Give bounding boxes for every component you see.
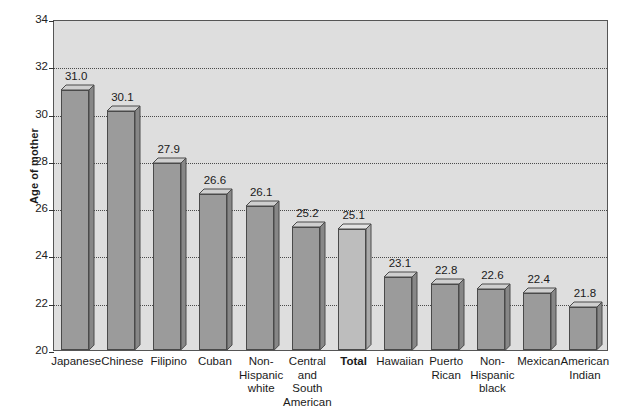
bar-value-label: 25.2 [284,208,330,220]
bar-3d-faces [431,279,466,352]
bar[interactable] [569,302,602,350]
bar-top-face [153,158,186,163]
bar-side-face [597,302,602,350]
bar-value-label: 30.1 [99,92,145,104]
bar[interactable] [246,201,279,350]
bar-side-face [412,272,417,350]
bar-top-face [199,189,232,194]
bar-value-label: 22.6 [469,270,515,282]
bar[interactable] [61,85,94,350]
bar-top-face [292,222,325,227]
y-axis-tick-labels: 3432302826242220 [24,0,48,418]
bar-value-label: 27.9 [146,144,192,156]
bar-side-face [551,288,556,350]
bar-side-face [505,284,510,350]
bar-3d-faces [246,201,281,352]
y-axis-tick-label: 24 [26,250,48,262]
bar-side-face [459,279,464,350]
bar[interactable] [107,106,140,350]
bar-side-face [274,201,279,350]
bar-side-face [227,189,232,350]
bar-top-face [338,224,371,229]
bar-top-face [523,288,556,293]
bar-top-face [246,201,279,206]
x-axis-category-label-line: American [557,355,613,369]
bar-3d-faces [292,222,327,352]
y-axis-tick-label: 30 [26,109,48,121]
bar-3d-faces [61,85,96,352]
bar-top-face [61,85,94,90]
x-axis-category-label: AmericanIndian [557,355,613,382]
y-axis-tick-label: 32 [26,61,48,73]
bar-value-label: 22.4 [516,274,562,286]
bar-top-face [384,272,417,277]
bar-side-face [366,224,371,350]
y-axis-tick-label: 22 [26,298,48,310]
bar-3d-faces [523,288,558,352]
bar-top-face [477,284,510,289]
bar-value-label: 25.1 [331,210,377,222]
bar-value-label: 26.6 [192,175,238,187]
bar-side-face [181,158,186,350]
bar-side-face [135,106,140,350]
plot-area [53,20,608,351]
y-axis-tick-label: 34 [26,14,48,26]
bar-top-face [569,302,602,307]
bar-3d-faces [107,106,142,352]
bar-value-label: 23.1 [377,258,423,270]
y-axis-tickmark [49,352,54,353]
x-axis-category-label-line: black [464,382,520,396]
bar-3d-faces [338,224,373,352]
bars-layer [54,21,607,350]
x-axis-category-label-line: American [279,396,335,410]
y-axis-tick-label: 28 [26,156,48,168]
bar[interactable] [292,222,325,350]
y-axis-tick-label: 20 [26,345,48,357]
bar-top-face [107,106,140,111]
bar[interactable] [199,189,232,350]
bar-value-label: 22.8 [423,265,469,277]
bar-value-label: 26.1 [238,187,284,199]
bar-value-label: 21.8 [562,288,608,300]
bar[interactable] [153,158,186,350]
bar-chart: Age of mother 3432302826242220 31.030.12… [0,0,624,418]
bar-3d-faces [384,272,419,352]
bar[interactable] [384,272,417,350]
bar-3d-faces [199,189,234,352]
x-axis-category-label-line: and [279,369,335,383]
x-axis-category-label-line: South [279,382,335,396]
bar-value-label: 31.0 [53,71,99,83]
bar-3d-faces [153,158,188,352]
bar[interactable] [338,224,371,350]
bar-side-face [89,85,94,350]
bar[interactable] [523,288,556,350]
y-axis-tick-label: 26 [26,203,48,215]
bar-top-face [431,279,464,284]
bar[interactable] [477,284,510,350]
bar-side-face [320,222,325,350]
bar-3d-faces [569,302,604,352]
bar[interactable] [431,279,464,350]
x-axis-category-label-line: Hispanic [464,369,520,383]
bar-3d-faces [477,284,512,352]
x-axis-category-label-line: Indian [557,369,613,383]
